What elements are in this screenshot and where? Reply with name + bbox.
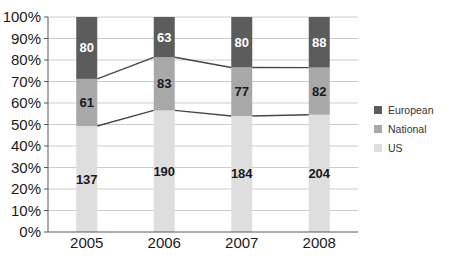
stacked-bar-chart: 13761801908363184778020482880%10%20%30%4…	[0, 0, 449, 261]
y-tick-label: 90%	[11, 30, 41, 47]
bar-value-label: 77	[235, 84, 249, 99]
x-category-label: 2005	[70, 234, 103, 251]
y-tick-label: 20%	[11, 180, 41, 197]
series-line	[175, 57, 232, 67]
series-line	[97, 110, 154, 126]
legend-swatch-us	[374, 144, 382, 152]
legend-item-european: European	[374, 104, 434, 116]
y-tick-label: 30%	[11, 159, 41, 176]
legend-item-us: US	[374, 142, 434, 154]
bar-value-label: 204	[308, 166, 330, 181]
bar-value-label: 184	[231, 166, 253, 181]
y-tick-label: 60%	[11, 94, 41, 111]
y-tick-label: 0%	[19, 223, 41, 240]
bar-value-label: 88	[312, 35, 326, 50]
x-category-label: 2008	[303, 234, 336, 251]
bar-value-label: 190	[153, 164, 175, 179]
bar-value-label: 63	[157, 30, 171, 45]
legend-label-national: National	[388, 123, 427, 135]
y-tick-label: 50%	[11, 116, 41, 133]
bar-value-label: 80	[235, 35, 249, 50]
legend: European National US	[374, 104, 434, 154]
legend-label-us: US	[388, 142, 403, 154]
bar-value-label: 61	[80, 95, 94, 110]
y-tick-label: 80%	[11, 51, 41, 68]
x-category-label: 2007	[225, 234, 258, 251]
y-tick-label: 100%	[3, 8, 41, 25]
x-category-label: 2006	[148, 234, 181, 251]
legend-item-national: National	[374, 123, 434, 135]
series-line	[175, 110, 232, 116]
bar-value-label: 137	[76, 172, 98, 187]
bar-value-label: 80	[80, 40, 94, 55]
bar-value-label: 82	[312, 84, 326, 99]
y-tick-label: 10%	[11, 202, 41, 219]
legend-swatch-european	[374, 106, 382, 114]
legend-swatch-national	[374, 125, 382, 133]
series-line	[252, 115, 309, 116]
legend-label-european: European	[388, 104, 434, 116]
bar-value-label: 83	[157, 76, 171, 91]
y-tick-label: 40%	[11, 137, 41, 154]
y-tick-label: 70%	[11, 73, 41, 90]
series-line	[97, 57, 154, 79]
